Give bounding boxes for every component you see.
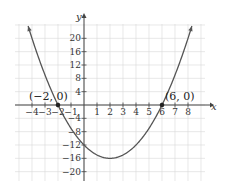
x-axis-label: x bbox=[211, 101, 217, 112]
y-tick-label: 12 bbox=[70, 60, 81, 70]
x-tick-label: 7 bbox=[172, 107, 178, 117]
x-tick-label: 8 bbox=[185, 107, 191, 117]
x-tick-label: −4 bbox=[25, 107, 39, 117]
intercept-point bbox=[160, 103, 165, 108]
y-tick-label: 8 bbox=[75, 73, 81, 83]
intercept-label: (6, 0) bbox=[165, 90, 195, 103]
y-tick-label: −20 bbox=[62, 167, 81, 177]
y-tick-label: 4 bbox=[75, 87, 81, 97]
y-tick-label: 16 bbox=[70, 47, 82, 57]
y-tick-label: 20 bbox=[70, 33, 82, 43]
y-tick-label: −8 bbox=[68, 127, 82, 137]
y-tick-label: −4 bbox=[68, 113, 82, 123]
y-tick-label: −12 bbox=[62, 140, 81, 150]
x-tick-label: 1 bbox=[94, 107, 100, 117]
x-tick-label: 4 bbox=[133, 107, 139, 117]
intercept-point bbox=[56, 103, 61, 108]
x-tick-label: 5 bbox=[146, 107, 152, 117]
x-tick-label: −2 bbox=[51, 107, 64, 117]
parabola-chart: −4−3−2−11234567820161284−4−8−12−16−20 (−… bbox=[0, 0, 225, 195]
intercept-label: (−2, 0) bbox=[29, 90, 68, 103]
y-tick-label: −16 bbox=[62, 153, 81, 163]
y-axis-label: y bbox=[75, 11, 82, 22]
x-tick-label: −3 bbox=[38, 107, 52, 117]
x-tick-label: 3 bbox=[120, 107, 126, 117]
x-tick-label: 2 bbox=[107, 107, 113, 117]
